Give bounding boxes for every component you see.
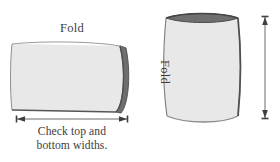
caption-top-bottom-widths: Check top and bottom widths. xyxy=(0,125,144,152)
panel-top-bottom-widths: Fold Check top and bottom widths. xyxy=(0,0,144,162)
fold-label-side: Fold xyxy=(157,60,172,84)
diagram-canvas: Fold Check top and bottom widths. Fold C… xyxy=(0,0,280,162)
caption-line-2: bottom widths. xyxy=(0,139,144,153)
caption-line-1: Check top and xyxy=(38,125,106,138)
panel-side-lengths: Fold Check side lengths. xyxy=(144,0,280,162)
fold-label-top: Fold xyxy=(0,21,144,35)
